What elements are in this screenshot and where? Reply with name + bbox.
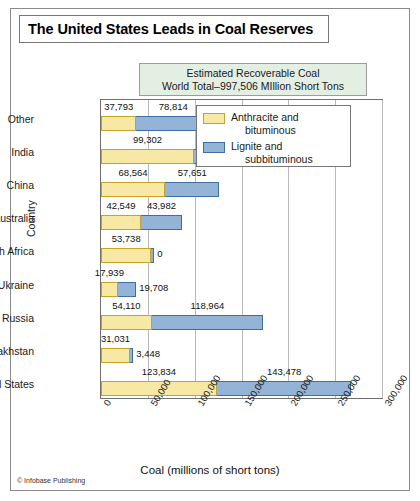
bar-segment-anthracite xyxy=(101,248,151,263)
chart-subtitle-line-2: World Total–997,506 MIllion Short Tons xyxy=(162,80,344,93)
bar-value-label-lignite: 19,708 xyxy=(139,282,168,293)
y-axis-category-label: United States xyxy=(0,378,34,390)
bar-segment-lignite xyxy=(217,381,351,396)
stacked-bar xyxy=(101,282,136,297)
y-axis-category-label: Kazakhstan xyxy=(0,345,34,357)
bar-segment-lignite xyxy=(141,215,182,230)
y-axis-category-label: Other xyxy=(0,113,34,125)
bar-segment-anthracite xyxy=(101,315,152,330)
y-axis-category-label: Ukraine xyxy=(0,279,34,291)
stacked-bar xyxy=(101,315,263,330)
bar-value-label-lignite: 3,448 xyxy=(136,348,160,359)
bar-value-label-anthracite: 31,031 xyxy=(101,333,130,344)
legend-label-anthracite-line1: Anthracite and xyxy=(231,111,299,123)
bar-value-label-anthracite: 17,939 xyxy=(95,267,124,278)
bar-segment-anthracite xyxy=(101,149,194,164)
bar-value-label-anthracite: 68,564 xyxy=(119,167,148,178)
bar-value-label-anthracite: 37,793 xyxy=(104,101,133,112)
chart-figure: The United States Leads in Coal Reserves… xyxy=(10,8,410,491)
bar-value-label-lignite: 0 xyxy=(157,248,162,259)
chart-row: 31,0313,448 xyxy=(101,332,382,365)
bar-segment-lignite xyxy=(152,315,263,330)
chart-row: 53,7380 xyxy=(101,232,382,265)
bar-segment-anthracite xyxy=(101,215,141,230)
x-axis-tick-label: 0 xyxy=(101,398,113,408)
chart-row: 54,110118,964 xyxy=(101,299,382,332)
chart-title-box: The United States Leads in Coal Reserves xyxy=(19,15,329,43)
anthracite-swatch-icon xyxy=(203,113,225,124)
x-axis-title: Coal (millions of short tons) xyxy=(11,464,409,476)
stacked-bar xyxy=(101,381,351,396)
gridline xyxy=(382,100,383,398)
y-axis-category-label: Russia xyxy=(0,312,34,324)
bar-segment-lignite xyxy=(151,248,154,263)
y-axis-category-label: India xyxy=(0,146,34,158)
stacked-bar xyxy=(101,215,182,230)
legend-label-lignite-line2: subbituminous xyxy=(231,153,313,166)
chart-subtitle-line-1: Estimated Recoverable Coal xyxy=(186,67,319,80)
bar-value-label-lignite: 78,814 xyxy=(159,101,188,112)
bar-segment-anthracite xyxy=(101,348,130,363)
bar-segment-anthracite xyxy=(101,116,136,131)
stacked-bar xyxy=(101,182,219,197)
legend-label-lignite-line1: Lignite and xyxy=(231,140,282,152)
x-axis-tick-label: 300,000 xyxy=(382,373,410,408)
bar-value-label-anthracite: 99,302 xyxy=(133,134,162,145)
stacked-bar xyxy=(101,149,197,164)
bar-value-label-lignite: 143,478 xyxy=(267,366,301,377)
bar-segment-lignite xyxy=(165,182,219,197)
stacked-bar xyxy=(101,248,154,263)
y-axis-category-label: South Africa xyxy=(0,245,34,257)
legend-label-anthracite: Anthracite and bituminous xyxy=(231,111,299,137)
bar-segment-lignite xyxy=(118,282,136,297)
legend-label-anthracite-line2: bituminous xyxy=(231,124,299,137)
y-axis-category-label: China xyxy=(0,179,34,191)
legend-item-lignite: Lignite and subbituminous xyxy=(203,140,346,166)
chart-row: 68,56457,651 xyxy=(101,166,382,199)
bar-value-label-lignite: 118,964 xyxy=(191,300,225,311)
stacked-bar xyxy=(101,348,133,363)
bar-segment-anthracite xyxy=(101,182,165,197)
bar-value-label-lignite: 43,982 xyxy=(147,200,176,211)
credit-line: © Infobase Publishing xyxy=(17,477,85,484)
chart-row: 42,54943,982 xyxy=(101,199,382,232)
chart-subtitle-box: Estimated Recoverable Coal World Total–9… xyxy=(139,63,367,96)
legend-item-anthracite: Anthracite and bituminous xyxy=(203,111,346,137)
bar-value-label-anthracite: 123,834 xyxy=(142,366,176,377)
chart-row: 17,93919,708 xyxy=(101,266,382,299)
chart-legend: Anthracite and bituminous Lignite and su… xyxy=(196,105,351,167)
bar-segment-lignite xyxy=(130,348,133,363)
bar-value-label-anthracite: 54,110 xyxy=(112,300,140,311)
stacked-bar xyxy=(101,116,210,131)
bar-value-label-lignite: 57,651 xyxy=(178,167,207,178)
bar-value-label-anthracite: 42,549 xyxy=(106,200,135,211)
bar-value-label-anthracite: 53,738 xyxy=(112,233,141,244)
lignite-swatch-icon xyxy=(203,142,225,153)
y-axis-category-label: Australia xyxy=(0,212,34,224)
bar-segment-anthracite xyxy=(101,282,118,297)
page-title: The United States Leads in Coal Reserves xyxy=(20,21,313,37)
legend-label-lignite: Lignite and subbituminous xyxy=(231,140,313,166)
